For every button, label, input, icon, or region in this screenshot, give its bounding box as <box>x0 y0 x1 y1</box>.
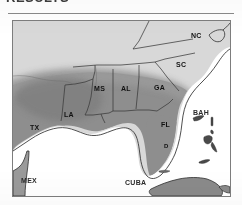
page-header-fragment: RESULTS <box>6 0 126 5</box>
map-figure: NC SC GA AL MS LA TX FL MEX CUBA BAH D <box>12 20 231 197</box>
map-graphic <box>13 21 230 196</box>
page-header-text: RESULTS <box>6 0 126 5</box>
header-divider <box>8 13 234 14</box>
